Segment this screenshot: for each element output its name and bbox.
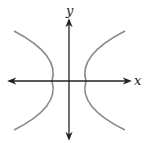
hyperbola-diagram: y x xyxy=(0,0,145,143)
x-axis-label: x xyxy=(134,73,142,88)
y-axis-label: y xyxy=(65,3,74,18)
